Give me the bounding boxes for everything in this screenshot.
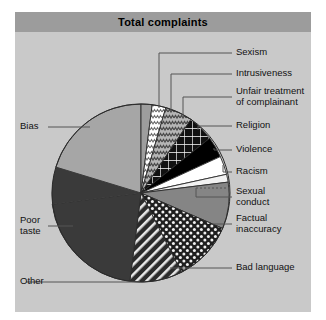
leader-line-sexism: [159, 53, 232, 108]
pie-slices: [52, 104, 230, 282]
label-racism: Racism: [236, 165, 268, 176]
label-sexual-conduct: Sexual conduct: [236, 185, 269, 207]
label-bad-language: Bad language: [236, 261, 295, 272]
label-violence: Violence: [236, 143, 272, 154]
chart-screenshot: Total complaints: [0, 0, 326, 320]
label-sexism: Sexism: [236, 46, 267, 57]
label-other: Other: [20, 275, 44, 286]
pie-slice-poor-taste[interactable]: [52, 193, 141, 281]
label-factual-inaccuracy: Factual inaccuracy: [236, 212, 281, 234]
label-poor-taste: Poor taste: [20, 214, 41, 236]
label-unfair-treatment: Unfair treatment of complainant: [236, 85, 304, 107]
pie-chart-plot: [0, 0, 326, 320]
label-religion: Religion: [236, 119, 270, 130]
label-bias: Bias: [20, 120, 38, 131]
label-intrusiveness: Intrusiveness: [236, 67, 292, 78]
leader-line-intrusiveness: [171, 74, 232, 112]
leader-line-unfair: [183, 97, 232, 118]
